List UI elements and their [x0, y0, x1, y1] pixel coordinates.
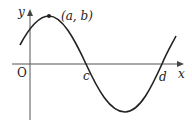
y-axis-arrow-icon [27, 9, 33, 16]
sine-graph: y x O (a, b) c d [0, 0, 192, 128]
origin-label: O [17, 66, 27, 80]
x-axis-label: x [178, 67, 185, 81]
zero-d-label: d [159, 70, 167, 84]
zero-c-label: c [83, 69, 90, 83]
max-point-label: (a, b) [61, 9, 93, 23]
max-point-marker [47, 14, 51, 18]
y-axis-label: y [17, 5, 25, 19]
